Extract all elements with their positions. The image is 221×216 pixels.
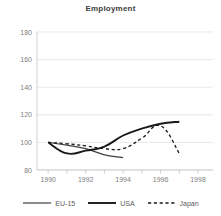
x-axis-tick-labels: 19901992199419961998 — [40, 176, 205, 183]
legend-swatch-dashed — [147, 199, 177, 207]
data-series-layer — [48, 122, 179, 158]
chart-legend: EU-15USAJapan — [0, 192, 221, 214]
legend-item-japan[interactable]: Japan — [147, 199, 199, 207]
y-tick-label: 120 — [20, 111, 32, 118]
employment-chart: Employment 80100120140160180 19901992199… — [0, 0, 221, 216]
plot-area: 80100120140160180 19901992199419961998 — [0, 0, 221, 216]
x-tick-label: 1992 — [78, 176, 94, 183]
legend-label: EU-15 — [55, 200, 75, 207]
legend-swatch-thick-solid — [87, 199, 117, 207]
legend-label: Japan — [180, 200, 199, 207]
x-tick-label: 1990 — [40, 176, 56, 183]
legend-item-eu-15[interactable]: EU-15 — [22, 199, 75, 207]
legend-swatch-thin-solid — [22, 199, 52, 207]
x-axis-ticks — [48, 170, 198, 174]
series-line-japan — [48, 125, 179, 153]
x-tick-label: 1994 — [115, 176, 131, 183]
legend-label: USA — [120, 200, 134, 207]
y-axis-tick-labels: 80100120140160180 — [20, 29, 32, 174]
y-tick-label: 80 — [24, 167, 32, 174]
y-tick-label: 160 — [20, 56, 32, 63]
x-tick-label: 1998 — [190, 176, 206, 183]
x-tick-label: 1996 — [153, 176, 169, 183]
y-tick-label: 180 — [20, 29, 32, 36]
plot-svg: 80100120140160180 19901992199419961998 — [0, 0, 221, 216]
y-tick-label: 140 — [20, 84, 32, 91]
gridlines — [37, 32, 213, 170]
legend-item-usa[interactable]: USA — [87, 199, 134, 207]
y-tick-label: 100 — [20, 139, 32, 146]
